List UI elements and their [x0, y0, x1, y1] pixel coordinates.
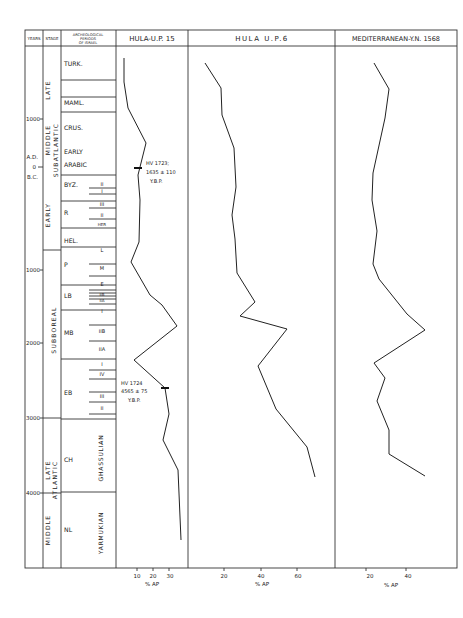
stage-early: EARLY: [44, 203, 51, 227]
col2-title: HULA U.P.6: [235, 35, 289, 43]
period-label: EARLY: [64, 148, 83, 155]
curve-hula-up6: [205, 63, 315, 477]
x-tick: 60: [295, 573, 302, 579]
curve-mediterranean-yn1568: [372, 63, 425, 476]
subperiod-label: M: [100, 265, 104, 271]
annotation-hv1723-line1: HV 1723;: [146, 160, 169, 166]
subperiod-label: II: [101, 405, 104, 411]
curve-hula-up15: [124, 58, 181, 540]
culture-ghassulian: GHASSULIAN: [97, 435, 104, 482]
annotation-hv1723-line3: Y.B.P.: [149, 178, 163, 184]
culture-yarmukian: YARMUKIAN: [97, 512, 104, 556]
pollen-diagram: YEARS STAGE ARCHEOLOGICAL PERIODS OF ISR…: [0, 0, 463, 618]
year-label: 3000: [26, 415, 40, 421]
subperiod-label: IIA: [99, 298, 104, 303]
x-axis-label: % AP: [145, 581, 160, 587]
stage-late-atlantic: LATE: [44, 460, 51, 479]
year-label: 1000: [26, 267, 40, 273]
periods-header-3: OF ISRAEL: [79, 41, 97, 45]
annotation-hv1723-line2: 1635 ± 110: [146, 169, 176, 175]
date-markers: [134, 168, 169, 388]
pollen-curves: [124, 58, 425, 540]
period-label: MB: [64, 329, 74, 336]
year-label: 1000: [26, 116, 40, 122]
subperiod-label: L: [101, 247, 104, 253]
table-header: YEARS STAGE ARCHEOLOGICAL PERIODS OF ISR…: [26, 33, 440, 45]
subperiods: II I III II HER L M E IIB IIA I IIB IIA …: [98, 181, 107, 446]
years-axis: 1000 A.D. 0 B.C. 1000 2000 3000 4000: [26, 116, 40, 496]
period-label: MAML.: [64, 99, 84, 106]
period-label: HEL.: [64, 237, 78, 244]
col1-title: HULA-U.P. 15: [129, 35, 174, 43]
subperiod-label: I: [101, 361, 102, 367]
year-label: 2000: [26, 340, 40, 346]
cultures: GHASSULIAN YARMUKIAN: [97, 435, 104, 556]
x-tick: 20: [367, 573, 374, 579]
subperiod-label: HER: [98, 222, 107, 227]
stage-subboreal: SUBBOREAL: [50, 306, 57, 353]
annotations: HV 1723; 1635 ± 110 Y.B.P. HV 1724 4565 …: [121, 160, 176, 403]
year-label: B.C.: [27, 174, 38, 180]
x-tick: 20: [221, 573, 228, 579]
periods-column: TURK. MAML. CRUS. EARLY ARABIC BYZ. R HE…: [63, 60, 87, 533]
subperiod-label: IIB: [99, 292, 104, 297]
subperiod-label: II: [101, 181, 104, 187]
period-label: ARABIC: [64, 161, 87, 168]
year-label: 4000: [26, 490, 40, 496]
period-label: CH: [64, 456, 73, 463]
years-header: YEARS: [26, 36, 40, 41]
annotation-hv1724-line1: HV 1724: [121, 380, 143, 386]
stage-subatlantic: SUBATLANTIC: [52, 123, 59, 178]
x-tick: 40: [258, 573, 265, 579]
stage-atlantic: ATLANTIC: [51, 461, 58, 500]
period-label: EB: [64, 389, 72, 396]
period-label: R: [64, 209, 69, 216]
x-axis-label: % AP: [384, 582, 399, 588]
annotation-hv1724-line3: Y.B.P.: [127, 397, 141, 403]
x-tick: 20: [150, 573, 157, 579]
subperiod-label: E: [100, 281, 103, 287]
stage-column: LATE MIDDLE SUBATLANTIC EARLY SUBBOREAL …: [44, 80, 59, 545]
subperiod-label: III: [100, 201, 104, 207]
year-label: 0: [33, 164, 37, 170]
subperiod-label: I: [101, 188, 102, 194]
subperiod-label: IV: [100, 371, 105, 377]
stage-middle-atlantic: MIDDLE: [44, 515, 51, 546]
year-label: A.D.: [27, 154, 39, 160]
period-label: BYZ.: [64, 181, 78, 188]
period-label: NL: [64, 526, 73, 533]
subperiod-label: IIB: [99, 328, 106, 334]
period-label: LB: [64, 292, 72, 299]
period-label: CRUS.: [64, 124, 83, 131]
x-tick: 30: [167, 573, 174, 579]
stage-middle: MIDDLE: [44, 125, 51, 156]
subperiod-label: III: [100, 393, 104, 399]
stage-late: LATE: [44, 80, 51, 99]
col3-title: MEDITERRANEAN-Y.N. 1568: [352, 35, 440, 43]
period-label: TURK.: [63, 60, 83, 67]
subperiod-label: II: [101, 212, 104, 218]
x-axis-label: % AP: [255, 581, 270, 587]
annotation-hv1724-line2: 4565 ± 75: [121, 388, 147, 394]
subperiod-label: IIA: [99, 346, 106, 352]
x-axis: 10 20 30 % AP 20 40 60 % AP 20 40 % AP: [134, 573, 412, 588]
stage-header: STAGE: [46, 36, 59, 41]
x-tick: 40: [405, 573, 412, 579]
x-tick: 10: [134, 573, 141, 579]
subperiod-label: I: [101, 308, 102, 314]
